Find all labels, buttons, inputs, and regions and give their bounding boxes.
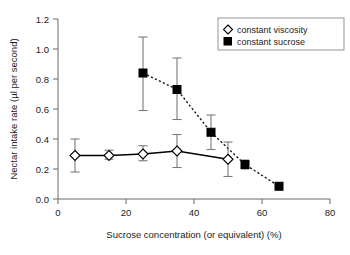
viscosity-point-35	[172, 146, 182, 156]
sucrose-point-45	[207, 128, 215, 136]
sucrose-point-55	[241, 161, 249, 169]
chart-container: 0.0 0.2 0.4 0.6 0.8 1.0 1.2 0 20 40 60 8…	[0, 0, 350, 255]
series-constant-sucrose	[139, 37, 284, 190]
y-axis-ticks	[53, 19, 58, 199]
x-axis-title: Sucrose concentration (or equivalent) (%…	[106, 229, 281, 240]
x-tick-label-0: 0	[55, 207, 60, 218]
x-tick-label-4: 80	[325, 207, 336, 218]
y-tick-label-4: 0.8	[36, 74, 49, 85]
x-axis-ticks	[58, 199, 330, 204]
viscosity-point-50	[223, 154, 233, 164]
legend-label-constant-sucrose: constant sucrose	[237, 37, 305, 47]
viscosity-trend-line	[75, 151, 228, 159]
y-tick-label-6: 1.2	[36, 14, 49, 25]
x-tick-label-1: 20	[121, 207, 132, 218]
x-tick-label-2: 40	[189, 207, 200, 218]
viscosity-point-5	[70, 151, 80, 161]
legend-label-constant-viscosity: constant viscosity	[237, 25, 308, 35]
chart-legend: constant viscosity constant sucrose	[218, 18, 344, 50]
y-tick-label-1: 0.2	[36, 164, 49, 175]
legend-filled-square-icon	[224, 38, 232, 46]
viscosity-point-25	[138, 149, 148, 159]
x-tick-label-3: 60	[257, 207, 268, 218]
y-tick-label-0: 0.0	[36, 194, 49, 205]
sucrose-point-25	[139, 69, 147, 77]
sucrose-point-65	[275, 182, 283, 190]
y-axis-title: Nectar intake rate (µl per second)	[8, 38, 19, 179]
y-tick-label-2: 0.4	[36, 134, 49, 145]
sucrose-point-35	[173, 86, 181, 94]
nectar-intake-scatter-chart: 0.0 0.2 0.4 0.6 0.8 1.0 1.2 0 20 40 60 8…	[0, 0, 350, 255]
series-constant-viscosity	[70, 135, 233, 177]
y-tick-label-5: 1.0	[36, 44, 49, 55]
y-tick-label-3: 0.6	[36, 104, 49, 115]
